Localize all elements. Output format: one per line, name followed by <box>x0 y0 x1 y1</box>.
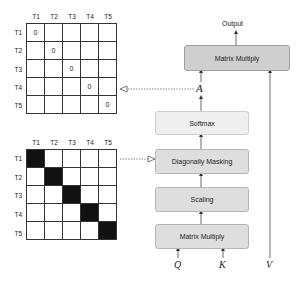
connector-lines <box>0 0 299 281</box>
v-input-label: V <box>266 259 272 270</box>
scaling-block: Scaling <box>155 187 249 212</box>
k-input-label: K <box>219 259 226 270</box>
output-label: Output <box>222 20 243 27</box>
diagonal-masking-block: Diagonally Masking <box>155 149 249 174</box>
attention-symbol: A <box>196 82 203 94</box>
matrix-multiply-bottom-block: Matrix Multiply <box>155 224 249 249</box>
q-input-label: Q <box>174 259 181 270</box>
softmax-block: Softmax <box>155 111 249 135</box>
matrix-multiply-top-block: Matrix Multiply <box>184 45 290 71</box>
